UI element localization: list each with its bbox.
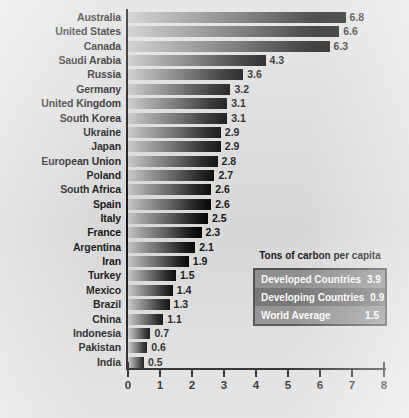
bar-row-label: European Union	[0, 154, 121, 169]
bar	[128, 141, 221, 152]
x-axis-tick-label: 3	[212, 379, 236, 391]
bar	[128, 242, 195, 253]
bar-row-label: Saudi Arabia	[0, 53, 121, 68]
bar	[128, 270, 176, 281]
bar-value-label: 2.8	[222, 154, 237, 169]
bar	[128, 12, 346, 23]
bar	[128, 213, 208, 224]
bar	[128, 357, 144, 368]
legend-row-label: World Average	[261, 310, 331, 321]
bar-row: South Korea3.1	[0, 111, 409, 126]
x-axis-tick	[223, 370, 225, 377]
x-axis-tick-label: 6	[308, 379, 332, 391]
bar-row-label: South Korea	[0, 111, 121, 126]
x-axis-tick	[287, 370, 289, 377]
bar-value-label: 2.7	[218, 168, 233, 183]
bar-value-label: 6.8	[350, 10, 365, 25]
legend-row-value: 0.9	[370, 292, 384, 303]
bar-row: Germany3.2	[0, 82, 409, 97]
bar	[128, 299, 170, 310]
bar-value-label: 3.1	[231, 111, 246, 126]
bar-row-label: Australia	[0, 10, 121, 25]
legend-row: World Average1.5	[255, 306, 385, 324]
bar	[128, 156, 218, 167]
x-axis-tick-label: 8	[372, 379, 396, 391]
bar	[128, 184, 211, 195]
bar-row-label: Brazil	[0, 297, 121, 312]
bar-value-label: 1.9	[193, 254, 208, 269]
bar-row-label: Iran	[0, 254, 121, 269]
bar-value-label: 2.9	[225, 125, 240, 140]
legend-box: Developed Countries3.9Developing Countri…	[253, 268, 387, 326]
bar-row: Ukraine2.9	[0, 125, 409, 140]
legend-row-value: 3.9	[367, 274, 381, 285]
x-axis-endcap	[127, 362, 129, 370]
bar	[128, 314, 163, 325]
bar-row: Australia6.8	[0, 10, 409, 25]
x-axis-tick-label: 0	[116, 379, 140, 391]
bar	[128, 98, 227, 109]
bar	[128, 342, 147, 353]
x-axis-tick	[383, 370, 385, 377]
bar-value-label: 0.7	[154, 326, 169, 341]
bar	[128, 84, 230, 95]
bar-row-label: Indonesia	[0, 326, 121, 341]
x-axis-tick-label: 4	[244, 379, 268, 391]
x-axis-tick	[191, 370, 193, 377]
bar-row-label: Ukraine	[0, 125, 121, 140]
bar-value-label: 0.5	[148, 355, 163, 370]
bar	[128, 227, 202, 238]
bar-row-label: Spain	[0, 197, 121, 212]
bar-row-label: Russia	[0, 67, 121, 82]
bar-row: Poland2.7	[0, 168, 409, 183]
legend-row-value: 1.5	[365, 310, 379, 321]
bar-row-label: India	[0, 355, 121, 370]
bar-row-label: Turkey	[0, 268, 121, 283]
bar-value-label: 2.1	[199, 240, 214, 255]
bar-row: Spain2.6	[0, 197, 409, 212]
bar-value-label: 1.1	[167, 312, 182, 327]
bar-row: Pakistan0.6	[0, 340, 409, 355]
bar-row: United Kingdom3.1	[0, 96, 409, 111]
bar-value-label: 2.6	[215, 197, 230, 212]
x-axis-tick	[159, 370, 161, 377]
bar-value-label: 1.5	[180, 268, 195, 283]
x-axis-endcap	[383, 362, 385, 370]
bar-value-label: 1.3	[174, 297, 189, 312]
bar-row: Italy2.5	[0, 211, 409, 226]
bar-row-label: Argentina	[0, 240, 121, 255]
bar-value-label: 0.6	[151, 340, 166, 355]
bar-value-label: 3.6	[247, 67, 262, 82]
bar-row-label: Poland	[0, 168, 121, 183]
x-axis-tick-label: 7	[340, 379, 364, 391]
bar	[128, 285, 173, 296]
bar-row-label: France	[0, 225, 121, 240]
bar-row-label: Japan	[0, 139, 121, 154]
x-axis-tick	[255, 370, 257, 377]
bar-row: Russia3.6	[0, 67, 409, 82]
x-axis-tick-label: 1	[148, 379, 172, 391]
x-axis-tick-label: 5	[276, 379, 300, 391]
bar	[128, 199, 211, 210]
bar-row: Indonesia0.7	[0, 326, 409, 341]
bar	[128, 69, 243, 80]
x-axis-tick-label: 2	[180, 379, 204, 391]
bar-row-label: China	[0, 312, 121, 327]
bar-value-label: 2.6	[215, 182, 230, 197]
x-axis-tick	[351, 370, 353, 377]
bar-row: European Union2.8	[0, 154, 409, 169]
bar-row-label: South Africa	[0, 182, 121, 197]
bar-value-label: 2.5	[212, 211, 227, 226]
bar-row: South Africa2.6	[0, 182, 409, 197]
plot-area: Australia6.8United States6.6Canada6.3Sau…	[0, 0, 409, 418]
bar-row-label: United States	[0, 24, 121, 39]
bar-row: Japan2.9	[0, 139, 409, 154]
bar-row-label: Canada	[0, 39, 121, 54]
bar-value-label: 3.2	[234, 82, 249, 97]
bar-value-label: 2.3	[206, 225, 221, 240]
bar	[128, 113, 227, 124]
bar-value-label: 1.4	[177, 283, 192, 298]
bar	[128, 55, 266, 66]
legend-title: Tons of carbon per capita	[240, 250, 400, 261]
x-axis-tick	[127, 370, 129, 377]
